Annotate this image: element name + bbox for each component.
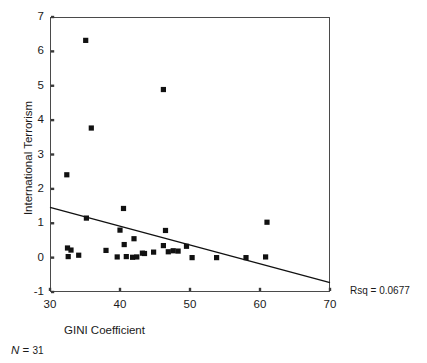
regression-line-group [50, 207, 330, 282]
y-tick-label: 7 [16, 11, 44, 23]
x-tick-mark [329, 288, 331, 291]
data-point-marker [243, 255, 248, 260]
data-point-marker [89, 125, 94, 130]
y-tick-label: -1 [16, 286, 44, 298]
data-point-marker [68, 247, 73, 252]
x-tick-mark [189, 288, 191, 291]
x-tick-label: 50 [175, 299, 205, 311]
data-point-marker [84, 215, 89, 220]
data-point-marker [134, 254, 139, 259]
data-point-marker [64, 172, 69, 177]
data-point-marker [176, 248, 181, 253]
n-equals: = [19, 344, 32, 356]
data-point-marker [122, 242, 127, 247]
y-tick-mark [51, 291, 54, 293]
y-tick-mark [51, 85, 54, 87]
data-point-marker [117, 228, 122, 233]
data-point-marker [190, 255, 195, 260]
data-point-marker [163, 228, 168, 233]
rsq-annotation: Rsq = 0.0677 [350, 285, 410, 296]
data-point-marker [184, 244, 189, 249]
data-point-marker [142, 251, 147, 256]
x-tick-label: 70 [315, 299, 345, 311]
x-tick-mark [49, 288, 51, 291]
data-point-marker [171, 248, 176, 253]
data-point-marker [161, 243, 166, 248]
data-point-marker [115, 254, 120, 259]
data-point-marker [151, 250, 156, 255]
y-tick-mark [51, 119, 54, 121]
data-point-marker [263, 254, 268, 259]
y-tick-mark [51, 50, 54, 52]
x-tick-label: 30 [35, 299, 65, 311]
x-tick-mark [119, 288, 121, 291]
data-point-marker [83, 38, 88, 43]
data-point-marker [161, 87, 166, 92]
data-point-marker [214, 255, 219, 260]
data-point-marker [124, 254, 129, 259]
x-tick-label: 40 [105, 299, 135, 311]
tick-marks-group [49, 16, 331, 293]
y-tick-mark [51, 16, 54, 18]
n-count: 31 [32, 345, 43, 356]
y-axis-title: International Terrorism [22, 83, 34, 233]
regression-line [50, 207, 330, 282]
data-point-marker [121, 206, 126, 211]
data-point-marker [103, 248, 108, 253]
y-tick-label: 0 [16, 252, 44, 264]
data-point-marker [76, 253, 81, 258]
sample-size-annotation: N = 31 [11, 344, 44, 356]
data-point-marker [66, 254, 71, 259]
data-points-group [64, 38, 269, 260]
x-axis-title: GINI Coefficient [64, 324, 145, 336]
x-tick-label: 60 [245, 299, 275, 311]
y-tick-mark [51, 222, 54, 224]
data-point-marker [264, 220, 269, 225]
y-tick-label: 6 [16, 45, 44, 57]
x-tick-mark [259, 288, 261, 291]
data-point-marker [131, 236, 136, 241]
y-tick-mark [51, 256, 54, 258]
y-tick-mark [51, 188, 54, 190]
data-point-marker [166, 249, 171, 254]
scatter-plot-figure: -101234567 3040506070 International Terr… [0, 0, 427, 363]
y-tick-mark [51, 153, 54, 155]
